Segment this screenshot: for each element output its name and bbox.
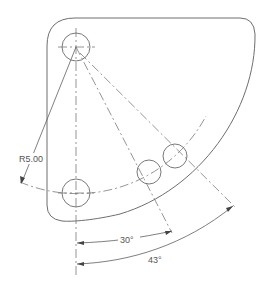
angle-43-arrow-left xyxy=(77,262,84,266)
radial-centerline-43 xyxy=(80,53,235,207)
angle-30-arrow-right xyxy=(165,231,172,235)
bolt-circle-centerline xyxy=(20,116,206,194)
radius-label: R5.00 xyxy=(19,154,43,164)
angle-30-arrow-left xyxy=(77,241,84,245)
part-outline xyxy=(47,18,255,221)
angle-30-label: 30° xyxy=(120,235,134,245)
angle-43-label: 43° xyxy=(148,255,162,265)
radial-centerline-30 xyxy=(76,47,172,233)
cad-drawing: 30° 43° R5.00 xyxy=(0,0,270,285)
drawing-canvas: 30° 43° R5.00 xyxy=(0,0,270,285)
